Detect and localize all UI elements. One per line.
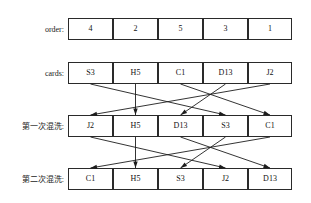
arrow-shuffle1-to-shuffle2-2-to-2: [133, 137, 137, 168]
order-cell-4: 3: [203, 18, 248, 40]
row-label-order: order:: [4, 25, 64, 35]
row-label-shuffle2: 第二次混洗:: [2, 175, 64, 185]
cards-cell-4: D13: [203, 62, 248, 84]
arrow-cards-to-shuffle1-3-to-5: [181, 84, 271, 115]
order-cell-5: 1: [248, 18, 292, 40]
shuffle1-cell-2: H5: [113, 115, 158, 137]
arrow-cards-to-shuffle1-2-to-2: [133, 84, 137, 115]
arrow-shuffle1-to-shuffle2-1-to-4: [91, 137, 226, 169]
cards-cell-5: J2: [248, 62, 292, 84]
shuffle2-cell-4: J2: [203, 168, 248, 190]
row-label-shuffle1: 第一次混洗:: [2, 122, 64, 132]
arrow-cards-to-shuffle1-4-to-3: [181, 84, 226, 115]
shuffle1-cell-3: D13: [158, 115, 203, 137]
shuffle2-cell-1: C1: [68, 168, 113, 190]
order-cell-3: 5: [158, 18, 203, 40]
order-cell-2: 2: [113, 18, 158, 40]
arrow-cards-to-shuffle1-1-to-4: [91, 84, 226, 116]
arrow-cards-to-shuffle1-5-to-1: [91, 84, 271, 116]
arrow-shuffle1-to-shuffle2-5-to-1: [91, 137, 271, 169]
cards-cell-3: C1: [158, 62, 203, 84]
cards-cell-2: H5: [113, 62, 158, 84]
row-label-cards: cards:: [4, 69, 64, 79]
cards-cell-1: S3: [68, 62, 113, 84]
shuffle1-cell-4: S3: [203, 115, 248, 137]
order-cell-1: 4: [68, 18, 113, 40]
shuffle2-cell-2: H5: [113, 168, 158, 190]
shuffle1-cell-5: C1: [248, 115, 292, 137]
shuffle2-cell-5: D13: [248, 168, 292, 190]
shuffle2-cell-3: S3: [158, 168, 203, 190]
diagram-canvas: order: 4 2 5 3 1 cards: S3 H5 C1 D13 J2 …: [0, 0, 311, 203]
shuffle1-cell-1: J2: [68, 115, 113, 137]
arrow-shuffle1-to-shuffle2-4-to-3: [181, 137, 226, 168]
arrow-shuffle1-to-shuffle2-3-to-5: [181, 137, 271, 168]
